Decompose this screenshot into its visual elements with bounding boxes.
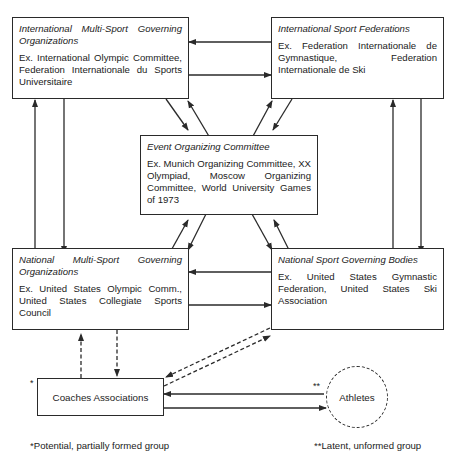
node-national-multi-sport: National Multi-Sport Governing Organizat…: [12, 248, 189, 330]
node-example: Ex. International Olympic Committee, Fed…: [19, 52, 182, 88]
node-event-organizing-committee: Event Organizing Committee Ex. Munich Or…: [140, 135, 318, 215]
node-label: Coaches Associations: [53, 392, 149, 403]
node-athletes: Athletes: [326, 366, 388, 428]
footnote-latent: **Latent, unformed group: [314, 440, 421, 451]
coaches-marker: *: [30, 378, 34, 388]
node-example: Ex. United States Olympic Comm., United …: [19, 283, 182, 319]
athletes-marker: **: [313, 381, 320, 391]
footnote-potential: *Potential, partially formed group: [30, 440, 169, 451]
node-label: Athletes: [339, 392, 374, 403]
node-example: Ex. United States Gymnastic Federation, …: [278, 271, 437, 307]
node-international-sport-federations: International Sport Federations Ex. Fede…: [271, 17, 444, 99]
node-coaches-associations: Coaches Associations: [37, 378, 164, 416]
node-example: Ex. Munich Organizing Committee, XX Olym…: [147, 158, 311, 206]
node-national-sport-governing-bodies: National Sport Governing Bodies Ex. Unit…: [271, 248, 444, 330]
node-title: International Multi-Sport Governing Orga…: [19, 23, 182, 47]
node-example: Ex. Federation Internationale de Gymnast…: [278, 40, 437, 76]
node-title: National Sport Governing Bodies: [278, 254, 437, 266]
node-title: National Multi-Sport Governing Organizat…: [19, 254, 182, 278]
node-international-multi-sport: International Multi-Sport Governing Orga…: [12, 17, 189, 99]
node-title: Event Organizing Committee: [147, 141, 311, 153]
node-title: International Sport Federations: [278, 23, 437, 35]
